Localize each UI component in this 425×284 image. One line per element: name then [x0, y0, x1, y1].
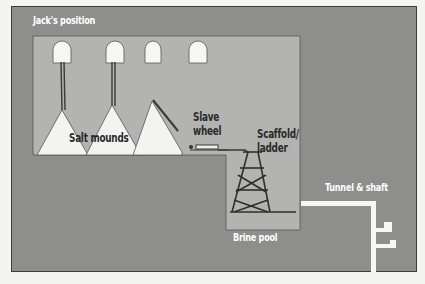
niche-3: [145, 41, 161, 63]
tunnel-shaft: [301, 201, 396, 272]
side-chamber-2: [376, 240, 396, 248]
label-tunnel-shaft: Tunnel & shaft: [325, 182, 388, 194]
niche-4: [189, 41, 207, 63]
label-brine-pool: Brine pool: [233, 232, 277, 244]
niche-1: [53, 41, 71, 63]
shaft: [371, 201, 376, 272]
label-scaffold-ladder: Scaffold/ ladder: [257, 127, 299, 155]
mine-diagram: [0, 0, 425, 284]
niche-2: [106, 41, 124, 63]
tunnel: [301, 201, 375, 206]
label-slave-wheel: Slave wheel: [193, 110, 221, 138]
side-chamber-1: [376, 222, 392, 232]
label-salt-mounds: Salt mounds: [69, 131, 129, 145]
label-jacks-position: Jack's position: [33, 15, 95, 27]
